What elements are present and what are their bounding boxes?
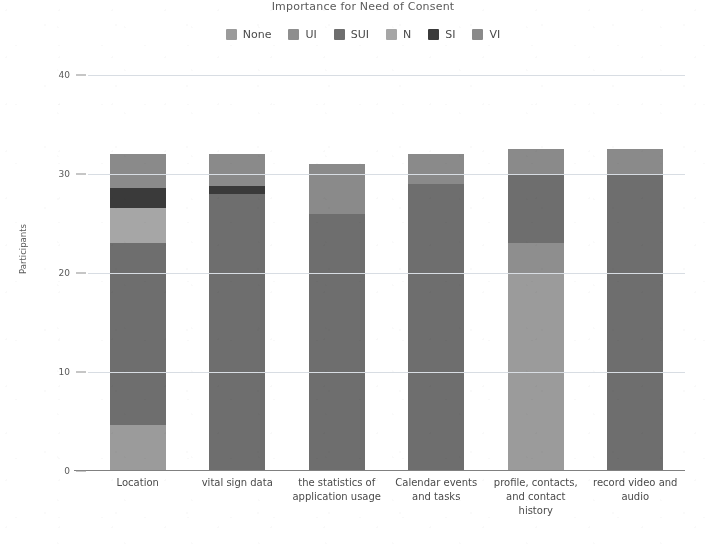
x-axis-line bbox=[74, 470, 685, 471]
legend-item-none[interactable]: None bbox=[226, 29, 272, 40]
x-tick-label: the statistics of application usage bbox=[289, 476, 385, 504]
bar-segment-sui[interactable] bbox=[309, 214, 365, 471]
y-tick-mark bbox=[76, 372, 86, 373]
x-tick-label: record video and audio bbox=[588, 476, 684, 504]
bar-segment-vi[interactable] bbox=[110, 154, 166, 188]
gridline bbox=[88, 372, 685, 373]
bar-segment-ui[interactable] bbox=[508, 243, 564, 273]
bar-segment-vi[interactable] bbox=[209, 154, 265, 186]
legend-swatch-icon bbox=[428, 29, 439, 40]
bar-segment-vi[interactable] bbox=[607, 149, 663, 174]
legend-swatch-icon bbox=[386, 29, 397, 40]
gridline bbox=[88, 174, 685, 175]
legend-item-label: VI bbox=[489, 29, 500, 40]
bar-segment-vi[interactable] bbox=[408, 154, 464, 184]
bar-segment-none[interactable] bbox=[110, 425, 166, 471]
legend-item-vi[interactable]: VI bbox=[472, 29, 500, 40]
x-axis-labels: Locationvital sign datathe statistics of… bbox=[88, 476, 685, 546]
legend-swatch-icon bbox=[226, 29, 237, 40]
legend-item-label: N bbox=[403, 29, 411, 40]
chart-title: Importance for Need of Consent bbox=[0, 0, 726, 13]
y-tick-label: 10 bbox=[44, 367, 70, 377]
gridline bbox=[88, 75, 685, 76]
bar-segment-si[interactable] bbox=[110, 188, 166, 208]
legend-item-label: None bbox=[243, 29, 272, 40]
legend-item-ui[interactable]: UI bbox=[288, 29, 316, 40]
legend-item-label: SUI bbox=[351, 29, 369, 40]
y-tick-label: 20 bbox=[44, 268, 70, 278]
legend-item-label: SI bbox=[445, 29, 455, 40]
legend-item-si[interactable]: SI bbox=[428, 29, 455, 40]
x-tick-label: Calendar events and tasks bbox=[389, 476, 485, 504]
chart-legend: NoneUISUINSIVI bbox=[0, 29, 726, 40]
y-tick-label: 40 bbox=[44, 70, 70, 80]
bar-segment-vi[interactable] bbox=[508, 149, 564, 174]
legend-swatch-icon bbox=[334, 29, 345, 40]
bar-segment-sui[interactable] bbox=[110, 243, 166, 425]
x-tick-label: Location bbox=[90, 476, 186, 490]
y-tick-mark bbox=[76, 273, 86, 274]
legend-item-label: UI bbox=[305, 29, 316, 40]
bar-segment-sui[interactable] bbox=[508, 174, 564, 243]
y-tick-label: 30 bbox=[44, 169, 70, 179]
bar-segment-sui[interactable] bbox=[607, 174, 663, 471]
bar-segment-sui[interactable] bbox=[408, 184, 464, 471]
x-tick-label: profile, contacts, and contact history bbox=[488, 476, 584, 518]
bar-segment-n[interactable] bbox=[110, 208, 166, 244]
y-tick-label: 0 bbox=[44, 466, 70, 476]
x-tick-label: vital sign data bbox=[190, 476, 286, 490]
bar-segment-si[interactable] bbox=[209, 186, 265, 194]
y-tick-mark bbox=[76, 75, 86, 76]
legend-swatch-icon bbox=[288, 29, 299, 40]
y-tick-mark bbox=[76, 174, 86, 175]
y-axis-title: Participants bbox=[18, 224, 28, 274]
bar-segment-vi[interactable] bbox=[309, 164, 365, 214]
legend-item-sui[interactable]: SUI bbox=[334, 29, 369, 40]
legend-swatch-icon bbox=[472, 29, 483, 40]
legend-item-n[interactable]: N bbox=[386, 29, 411, 40]
plot-area bbox=[88, 75, 685, 471]
bar-segment-sui[interactable] bbox=[209, 194, 265, 471]
stacked-bar-chart: Importance for Need of Consent NoneUISUI… bbox=[0, 0, 726, 548]
y-tick-mark bbox=[76, 471, 86, 472]
gridline bbox=[88, 273, 685, 274]
